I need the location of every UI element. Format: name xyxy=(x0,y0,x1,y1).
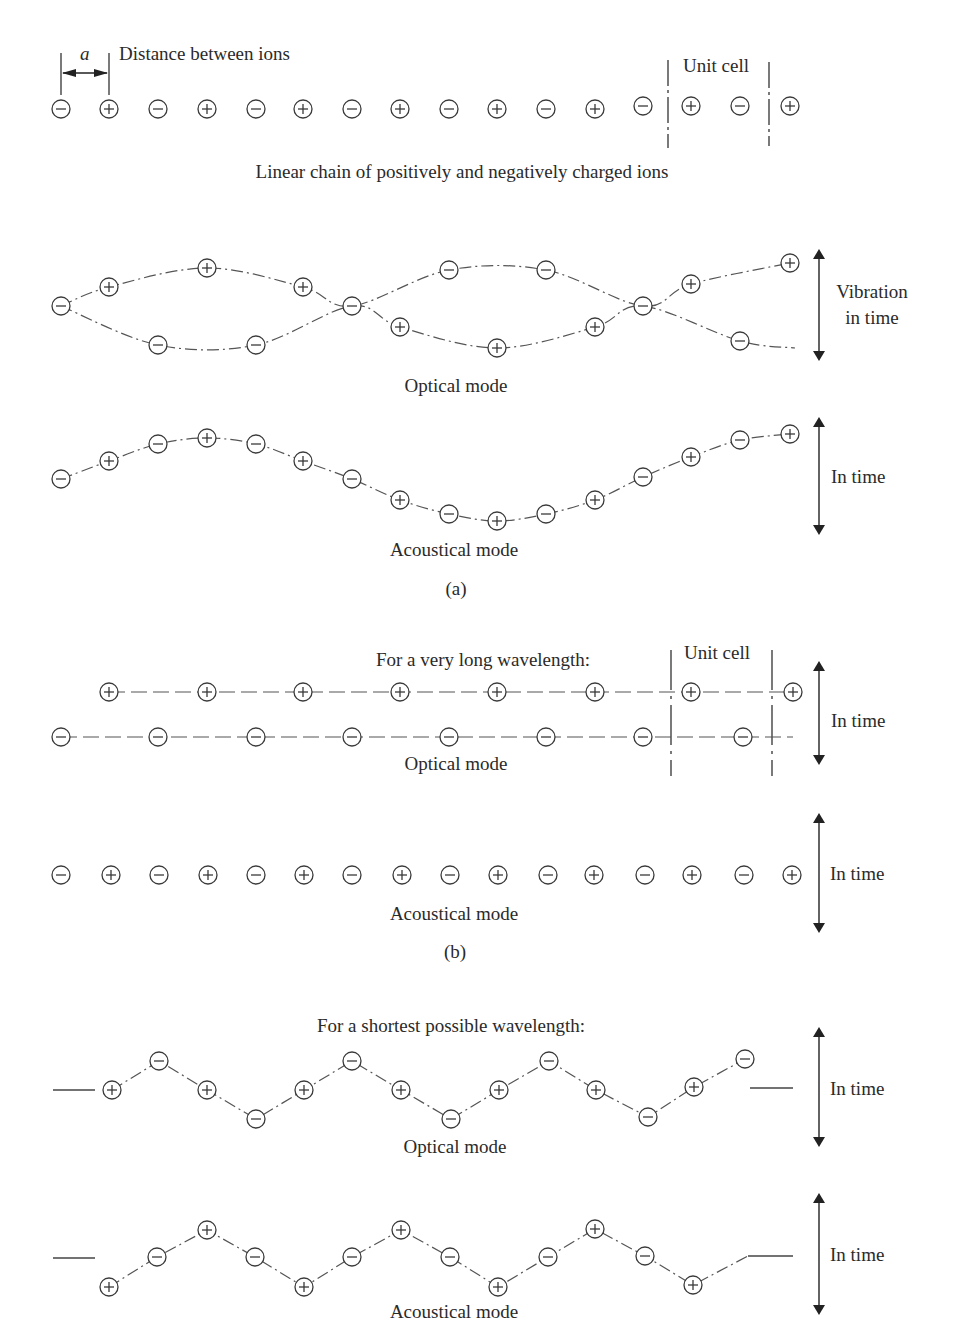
negative-ion-icon xyxy=(343,100,361,118)
positive-ion-icon xyxy=(393,866,411,884)
positive-ion-icon xyxy=(391,491,409,509)
negative-ion-icon xyxy=(247,728,265,746)
positive-ion-icon xyxy=(585,866,603,884)
panel-b-label: (b) xyxy=(444,942,466,961)
negative-ion-icon xyxy=(736,1050,754,1068)
negative-ion-icon xyxy=(731,97,749,115)
negative-ion-icon xyxy=(634,97,652,115)
optical-mode-c-side-label: In time xyxy=(830,1079,884,1098)
acoustical-mode-a-side-label: In time xyxy=(831,467,885,486)
positive-ion-icon xyxy=(488,339,506,357)
optical-mode-b-side-label: In time xyxy=(831,711,885,730)
negative-ion-icon xyxy=(539,1248,557,1266)
negative-ion-icon xyxy=(441,1248,459,1266)
positive-ion-icon xyxy=(781,254,799,272)
positive-ion-icon xyxy=(682,275,700,293)
optical-mode-c-ions xyxy=(103,1050,754,1128)
negative-ion-icon xyxy=(441,866,459,884)
positive-ion-icon xyxy=(391,318,409,336)
positive-ion-icon xyxy=(199,866,217,884)
positive-ion-icon xyxy=(294,100,312,118)
negative-ion-icon xyxy=(247,435,265,453)
distance-between-ions-label: Distance between ions xyxy=(119,44,290,63)
negative-ion-icon xyxy=(149,336,167,354)
acoustical-mode-a-ions xyxy=(52,425,799,530)
positive-ion-icon xyxy=(587,1081,605,1099)
negative-ion-icon xyxy=(634,297,652,315)
vibration-label-line1: Vibration xyxy=(836,282,908,301)
positive-ion-icon xyxy=(586,1220,604,1238)
negative-ion-icon xyxy=(442,1110,460,1128)
negative-ion-icon xyxy=(539,866,557,884)
negative-ion-icon xyxy=(247,866,265,884)
positive-ion-icon xyxy=(295,866,313,884)
positive-ion-icon xyxy=(392,1081,410,1099)
negative-ion-icon xyxy=(150,1052,168,1070)
positive-ion-icon xyxy=(488,100,506,118)
positive-ion-icon xyxy=(488,683,506,701)
panel-a-label: (a) xyxy=(445,579,466,598)
positive-ion-icon xyxy=(682,683,700,701)
negative-ion-icon xyxy=(731,332,749,350)
positive-ion-icon xyxy=(489,866,507,884)
positive-ion-icon xyxy=(100,683,118,701)
vibration-label-line2: in time xyxy=(845,308,898,327)
negative-ion-icon xyxy=(440,728,458,746)
positive-ion-icon xyxy=(586,683,604,701)
negative-ion-icon xyxy=(634,728,652,746)
positive-ion-icon xyxy=(198,683,216,701)
positive-ion-icon xyxy=(391,683,409,701)
positive-ion-icon xyxy=(198,259,216,277)
negative-ion-icon xyxy=(636,866,654,884)
acoustical-mode-b-side-label: In time xyxy=(830,864,884,883)
positive-ion-icon xyxy=(684,1276,702,1294)
negative-ion-icon xyxy=(537,728,555,746)
negative-ion-icon xyxy=(634,468,652,486)
negative-ion-icon xyxy=(440,100,458,118)
positive-ion-icon xyxy=(781,425,799,443)
negative-ion-icon xyxy=(540,1052,558,1070)
negative-ion-icon xyxy=(343,1052,361,1070)
positive-ion-icon xyxy=(586,491,604,509)
positive-ion-icon xyxy=(198,100,216,118)
positive-ion-icon xyxy=(198,429,216,447)
positive-ion-icon xyxy=(100,1278,118,1296)
acoustical-mode-a-label: Acoustical mode xyxy=(390,540,518,559)
positive-ion-icon xyxy=(586,100,604,118)
optical-mode-c-label: Optical mode xyxy=(404,1137,507,1156)
positive-ion-icon xyxy=(784,683,802,701)
top-unit-cell-label: Unit cell xyxy=(683,56,749,75)
positive-ion-icon xyxy=(294,452,312,470)
negative-ion-icon xyxy=(246,1248,264,1266)
lattice-spacing-symbol: a xyxy=(80,44,90,63)
acoustical-mode-c-label: Acoustical mode xyxy=(390,1302,518,1321)
negative-ion-icon xyxy=(440,505,458,523)
negative-ion-icon xyxy=(52,866,70,884)
negative-ion-icon xyxy=(247,100,265,118)
negative-ion-icon xyxy=(639,1108,657,1126)
optical-mode-a-ions xyxy=(52,254,799,357)
acoustical-mode-c-side-label: In time xyxy=(830,1245,884,1264)
positive-ion-icon xyxy=(783,866,801,884)
negative-ion-icon xyxy=(52,100,70,118)
negative-ion-icon xyxy=(735,866,753,884)
shortest-wavelength-heading: For a shortest possible wavelength: xyxy=(317,1016,585,1035)
positive-ion-icon xyxy=(103,1081,121,1099)
negative-ion-icon xyxy=(52,297,70,315)
positive-ion-icon xyxy=(391,100,409,118)
panel-b-unit-cell-label: Unit cell xyxy=(684,643,750,662)
negative-ion-icon xyxy=(537,505,555,523)
acoustical-mode-c-ions xyxy=(100,1220,702,1296)
panel-b-unit-cell-dividers xyxy=(671,650,772,776)
negative-ion-icon xyxy=(731,431,749,449)
negative-ion-icon xyxy=(343,1248,361,1266)
optical-mode-a-label: Optical mode xyxy=(405,376,508,395)
negative-ion-icon xyxy=(343,470,361,488)
positive-ion-icon xyxy=(294,278,312,296)
negative-ion-icon xyxy=(636,1247,654,1265)
positive-ion-icon xyxy=(198,1081,216,1099)
positive-ion-icon xyxy=(488,512,506,530)
positive-ion-icon xyxy=(685,1078,703,1096)
negative-ion-icon xyxy=(247,336,265,354)
positive-ion-icon xyxy=(392,1221,410,1239)
